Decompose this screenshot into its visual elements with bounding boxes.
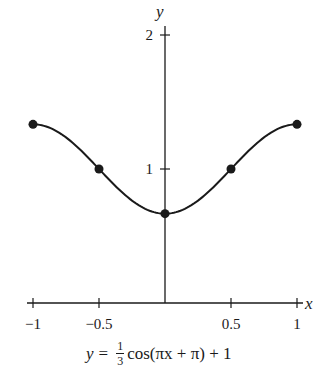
equation-fraction: 1 3 <box>116 340 124 367</box>
equation-lhs: y <box>86 344 94 364</box>
data-point <box>95 165 104 174</box>
tick-labels: −1−0.50.5112 <box>25 27 301 332</box>
y-tick-label: 2 <box>146 27 154 43</box>
equation-equals: = <box>99 344 109 364</box>
data-point <box>227 165 236 174</box>
data-point <box>293 120 302 129</box>
equation-caption: y = 1 3 cos(πx + π) + 1 <box>86 340 231 367</box>
equation-rhs: cos(πx + π) + 1 <box>127 344 231 364</box>
data-point <box>161 209 170 218</box>
x-tick-label: 1 <box>293 316 301 332</box>
axes <box>27 26 303 308</box>
fraction-numerator: 1 <box>117 340 123 352</box>
y-axis-label: y <box>154 2 164 21</box>
chart-plot-area: −1−0.50.5112 x y <box>0 0 332 381</box>
x-tick-label: −0.5 <box>85 316 112 332</box>
fraction-denominator: 3 <box>117 355 123 367</box>
y-tick-label: 1 <box>146 161 154 177</box>
x-tick-label: −1 <box>25 316 41 332</box>
x-tick-label: 0.5 <box>222 316 241 332</box>
data-point <box>29 120 38 129</box>
x-axis-label: x <box>304 294 313 313</box>
